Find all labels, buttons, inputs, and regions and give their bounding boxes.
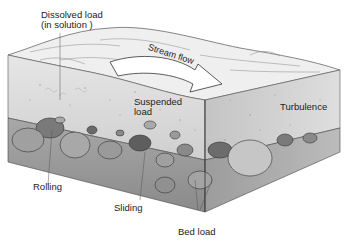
label-dissolved-load: Dissolved load (in solution ) [41,10,103,30]
load-text: load [134,107,182,117]
stream-load-diagram: Dissolved load (in solution ) Stream flo… [0,0,346,242]
label-suspended-load: Suspended load [134,97,182,117]
block-diagram-illustration [0,0,346,242]
label-turbulence: Turbulence [280,102,327,112]
label-bed-load: Bed load [178,227,216,237]
in-solution-text: (in solution ) [41,20,103,30]
label-sliding: Sliding [114,203,143,213]
label-rolling: Rolling [33,182,62,192]
